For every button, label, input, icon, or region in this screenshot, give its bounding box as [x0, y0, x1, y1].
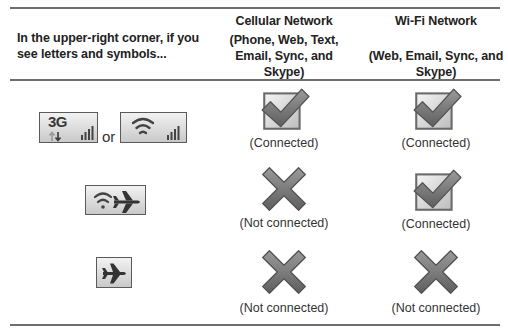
- or-text: or: [102, 128, 115, 145]
- status-label: (Not connected): [361, 301, 508, 315]
- row1-cellular-status: (Connected): [209, 83, 359, 150]
- row2-cellular-status: (Not connected): [209, 161, 359, 230]
- row3-cellular-status: (Not connected): [209, 244, 359, 315]
- wifi-title: Wi-Fi Network: [356, 13, 508, 29]
- cellular-subtitle-3: Skype): [209, 64, 359, 80]
- 3g-signal-icon: 3G: [39, 112, 98, 143]
- airplane-icon: [96, 257, 132, 288]
- cellular-column-header: Cellular Network (Phone, Web, Text, Emai…: [209, 13, 359, 80]
- checkmark-icon: [410, 83, 462, 135]
- wifi-column-header: Wi-Fi Network (Web, Email, Sync, and Sky…: [356, 13, 508, 80]
- cross-icon: [256, 244, 312, 300]
- status-label: (Connected): [361, 136, 508, 150]
- table-top-rule: [10, 7, 500, 9]
- wifi-airplane-icon: [85, 185, 146, 215]
- cross-icon: [256, 161, 312, 217]
- checkmark-icon: [410, 164, 462, 216]
- status-label: (Connected): [361, 217, 508, 231]
- cellular-title: Cellular Network: [209, 13, 359, 29]
- cross-icon: [408, 244, 464, 300]
- status-label: (Not connected): [209, 216, 359, 230]
- row3-wifi-status: (Not connected): [361, 244, 508, 315]
- indicator-column-header: In the upper-right corner, if you see le…: [17, 30, 217, 62]
- checkmark-icon: [258, 83, 310, 135]
- wifi-subtitle-2: Skype): [356, 64, 508, 80]
- wifi-subtitle-1: (Web, Email, Sync, and: [356, 48, 508, 64]
- row2-wifi-status: (Connected): [361, 164, 508, 231]
- cellular-subtitle-1: (Phone, Web, Text,: [209, 32, 359, 48]
- row1-wifi-status: (Connected): [361, 83, 508, 150]
- wifi-signal-icon: [120, 112, 187, 143]
- status-label: (Not connected): [209, 301, 359, 315]
- table-bottom-rule: [10, 324, 500, 326]
- cellular-subtitle-2: Email, Sync, and: [209, 48, 359, 64]
- status-label: (Connected): [209, 136, 359, 150]
